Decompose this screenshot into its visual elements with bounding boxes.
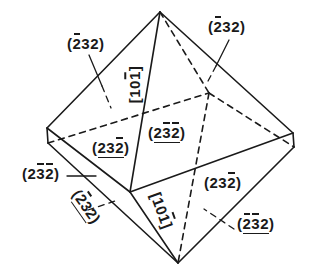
miller-indices: 232	[243, 215, 270, 234]
index-digit: 3	[218, 175, 227, 190]
miller-indices: 232	[73, 35, 100, 52]
index-digit-negative: 2	[45, 166, 54, 181]
index-digit-negative: 3	[251, 216, 260, 231]
bracket-close: )	[99, 35, 105, 52]
index-digit: 3	[222, 19, 231, 34]
bracket-open: [	[126, 98, 143, 104]
index-digit-negative: 2	[73, 36, 82, 51]
index-digit: 2	[210, 175, 219, 190]
index-digit: 2	[28, 166, 37, 181]
face-label-face-top-right: (232)	[208, 19, 246, 34]
bracket-close: )	[180, 124, 186, 141]
index-digit-negative: 3	[36, 166, 45, 181]
index-digit: 2	[98, 140, 107, 155]
face-label-face-left: (232)	[22, 166, 60, 181]
direction-label-edge-upper: [101]	[127, 66, 142, 104]
face-label-face-center-left: (232)	[92, 140, 130, 155]
miller-indices: 232	[98, 139, 125, 158]
index-digit: 3	[81, 36, 90, 51]
bracket-close: )	[124, 139, 130, 156]
miller-indices: 232	[210, 174, 237, 191]
index-digit-negative: 2	[171, 125, 180, 140]
miller-indices: 232	[28, 165, 55, 182]
index-digit: 2	[154, 125, 163, 140]
index-digit: 3	[106, 140, 115, 155]
bracket-close: )	[54, 165, 60, 182]
bracket-close: )	[236, 174, 242, 191]
index-digit-negative: 1	[127, 71, 142, 80]
index-digit-negative: 3	[162, 125, 171, 140]
bracket-close: )	[269, 215, 275, 232]
face-label-face-center: (232)	[148, 125, 186, 140]
index-digit: 1	[127, 89, 142, 98]
index-digit-negative: 2	[214, 19, 223, 34]
index-digit-negative: 2	[227, 175, 236, 190]
face-label-face-bottom-right: (232)	[237, 216, 275, 231]
index-digit: 2	[260, 216, 269, 231]
miller-indices: 101	[126, 71, 143, 98]
index-digit-negative: 2	[243, 216, 252, 231]
index-digit: 2	[90, 36, 99, 51]
index-digit-negative: 2	[115, 140, 124, 155]
index-digit: 2	[231, 19, 240, 34]
index-digit: 0	[127, 80, 142, 89]
face-label-face-top-left: (232)	[67, 36, 105, 51]
crystal-diagram: (232)(232)[101](232)(232)(232)(232)[101]…	[0, 0, 310, 270]
miller-indices: 232	[154, 124, 181, 143]
miller-indices: 232	[214, 18, 241, 35]
face-label-face-lower-right: (232)	[204, 175, 242, 190]
bracket-close: )	[240, 18, 246, 35]
